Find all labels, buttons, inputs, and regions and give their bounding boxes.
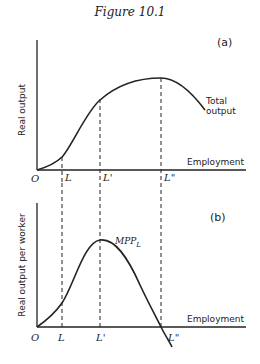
mpp-label-main: MPP (114, 236, 137, 246)
panel-a-x-axis-label: Employment (187, 157, 245, 167)
panel-b-x-axis-label: Employment (187, 314, 245, 324)
panel-b-tick-L-double-prime: L" (167, 332, 179, 343)
total-output-label-line1: Total (205, 96, 227, 106)
panel-a-tick-L-prime: L' (102, 172, 112, 183)
panel-b-tick-L: L (57, 332, 65, 343)
panel-b-label: (b) (210, 211, 226, 224)
panel-b-origin-label: O (31, 332, 39, 343)
panel-b-tick-L-prime: L' (95, 332, 105, 343)
panel-a: (a) Real output Employment Total output … (17, 36, 246, 184)
total-output-label-line2: output (206, 106, 236, 116)
mpp-label-subscript: L (135, 241, 141, 249)
mpp-curve (37, 240, 172, 347)
panel-a-tick-L: L (64, 172, 72, 183)
mpp-label: MPPL (114, 236, 141, 249)
panel-a-label: (a) (217, 36, 232, 49)
figure-canvas: Figure 10.1 (a) Real output Employment T… (0, 0, 260, 364)
panel-a-origin-label: O (31, 173, 39, 184)
panel-b: (b) Real output per worker Employment MP… (17, 183, 246, 347)
panel-b-y-axis-label: Real output per worker (17, 213, 27, 317)
figure-title: Figure 10.1 (94, 5, 166, 19)
panel-a-tick-L-double-prime: L" (163, 172, 175, 183)
total-output-curve (37, 78, 205, 170)
panel-a-y-axis-label: Real output (17, 84, 27, 136)
